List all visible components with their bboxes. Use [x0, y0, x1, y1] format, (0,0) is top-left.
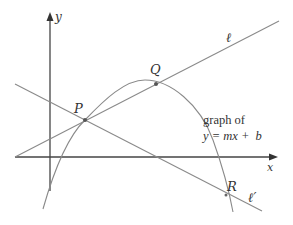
- parabola-curve: [43, 80, 233, 212]
- line-l-prime-label: ℓ′: [248, 190, 256, 205]
- line-l-label: ℓ: [226, 30, 232, 45]
- curve-annotation-line1: graph of: [203, 113, 246, 127]
- x-axis-arrow-icon: [269, 154, 278, 161]
- point-p-label: P: [73, 101, 83, 116]
- point-r-label: R: [226, 179, 237, 194]
- line-l-prime: [15, 84, 262, 211]
- point-q-marker: [154, 82, 158, 86]
- coordinate-diagram: x y ℓ ℓ′ P Q R graph of y = mx + b: [0, 0, 293, 225]
- point-p-marker: [83, 118, 87, 122]
- y-axis-label: y: [54, 10, 62, 24]
- y-axis-arrow-icon: [47, 12, 54, 21]
- point-q-label: Q: [150, 62, 161, 77]
- curve-annotation-line2: y = mx + b: [201, 129, 262, 143]
- x-axis: [15, 154, 278, 161]
- x-axis-label: x: [267, 161, 274, 174]
